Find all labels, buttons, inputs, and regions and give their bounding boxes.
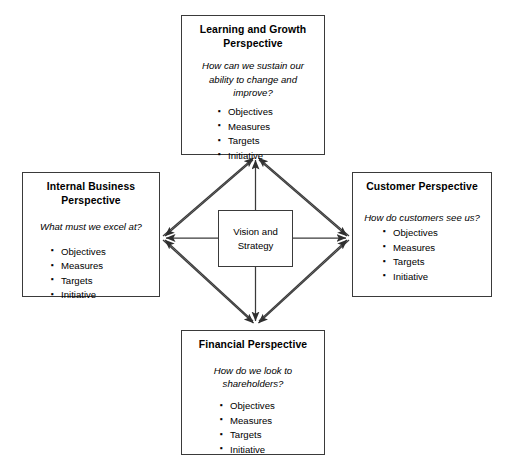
list-item: Measures [218,120,318,135]
balanced-scorecard-diagram: Learning and Growth Perspective How can … [0,0,511,470]
center-label: Vision and Strategy [233,225,278,252]
center-label-line2: Strategy [238,240,274,251]
node-financial: Financial Perspective How do we look to … [181,330,325,455]
list-item: Measures [51,259,153,274]
list-item: Objectives [220,399,318,414]
node-list-internal: Objectives Measures Targets Initiative [29,245,153,303]
list-item: Measures [383,241,485,256]
list-item: Initiative [383,270,485,285]
list-item: Measures [220,414,318,429]
node-title-customer: Customer Perspective [359,180,485,194]
node-vision-and-strategy: Vision and Strategy [218,210,293,267]
node-question-internal: What must we excel at? [33,220,149,233]
list-item: Targets [383,255,485,270]
node-question-financial: How do we look to shareholders? [192,364,314,390]
node-list-customer: Objectives Measures Targets Initiative [359,226,485,284]
list-item: Targets [218,134,318,149]
node-list-learning: Objectives Measures Targets Initiative [188,105,318,163]
node-question-customer: How do customers see us? [363,211,481,224]
node-question-learning: How can we sustain our ability to change… [192,59,314,99]
node-customer: Customer Perspective How do customers se… [352,172,492,297]
list-item: Initiative [218,149,318,164]
node-learning-and-growth: Learning and Growth Perspective How can … [181,15,325,155]
list-item: Objectives [218,105,318,120]
list-item: Initiative [51,288,153,303]
node-title-internal: Internal Business Perspective [29,180,153,207]
list-item: Initiative [220,443,318,458]
node-title-financial: Financial Perspective [188,338,318,352]
center-label-line1: Vision and [233,226,278,237]
list-item: Objectives [51,245,153,260]
list-item: Targets [51,274,153,289]
node-title-learning: Learning and Growth Perspective [188,23,318,50]
list-item: Targets [220,428,318,443]
list-item: Objectives [383,226,485,241]
node-list-financial: Objectives Measures Targets Initiative [188,399,318,457]
node-internal-business: Internal Business Perspective What must … [22,172,160,297]
